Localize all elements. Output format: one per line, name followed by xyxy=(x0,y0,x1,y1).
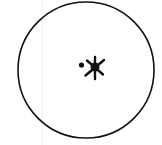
central-star-icon xyxy=(86,57,105,79)
outer-circle xyxy=(18,2,154,138)
diagram-canvas xyxy=(0,0,162,145)
small-dot xyxy=(79,62,84,67)
